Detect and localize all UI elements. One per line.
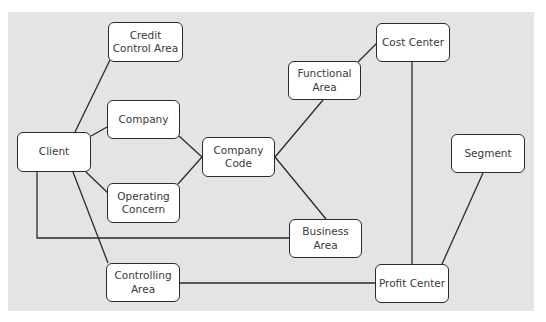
edge-segment-profit-center [442, 173, 483, 264]
node-credit-control-area: Credit Control Area [108, 22, 183, 62]
edge-client-controlling-area [73, 172, 108, 263]
edge-client-credit-control-area [75, 60, 110, 132]
edge-company-company-code [179, 136, 202, 157]
node-label: Operating Concern [110, 190, 177, 216]
node-label: Company [119, 113, 169, 126]
node-label: Segment [464, 147, 511, 160]
node-company: Company [107, 100, 180, 139]
node-profit-center: Profit Center [375, 264, 449, 303]
node-label: Controlling Area [109, 269, 177, 295]
edge-company-code-business-area [275, 157, 326, 219]
node-label: Cost Center [382, 36, 444, 49]
node-business-area: Business Area [289, 219, 362, 258]
edge-company-code-functional-area [275, 100, 323, 157]
edge-operating-concern-company-code [178, 157, 202, 184]
node-label: Profit Center [379, 277, 445, 290]
node-label: Functional Area [291, 67, 358, 93]
node-label: Client [39, 145, 69, 158]
node-segment: Segment [451, 134, 525, 173]
node-company-code: Company Code [202, 137, 275, 177]
edge-functional-area-cost-center [358, 43, 377, 62]
edge-client-company [91, 127, 107, 136]
node-controlling-area: Controlling Area [106, 263, 180, 302]
node-label: Credit Control Area [111, 29, 180, 55]
edge-client-operating-concern [86, 172, 108, 193]
node-label: Company Code [205, 144, 272, 170]
node-functional-area: Functional Area [288, 61, 361, 100]
node-label: Business Area [292, 225, 359, 251]
node-client: Client [17, 132, 91, 172]
node-cost-center: Cost Center [376, 23, 450, 62]
node-operating-concern: Operating Concern [107, 183, 180, 223]
